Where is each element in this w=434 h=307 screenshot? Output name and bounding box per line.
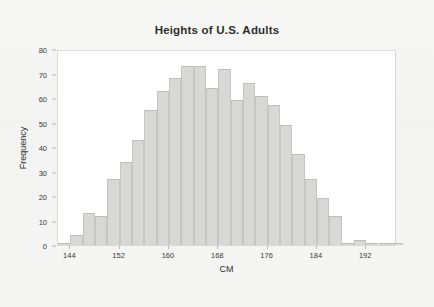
histogram-bar xyxy=(218,69,230,245)
x-axis: 144152160168176184192 xyxy=(57,246,396,264)
histogram-bar xyxy=(83,213,95,245)
histogram-bar xyxy=(317,198,329,245)
histogram-bar xyxy=(58,243,70,245)
y-tick-label: 80 xyxy=(39,46,47,55)
histogram-bar xyxy=(292,154,304,245)
x-tick-mark xyxy=(316,246,317,249)
y-tick-label: 50 xyxy=(39,119,47,128)
y-tick-mark xyxy=(52,123,56,124)
histogram-bar xyxy=(107,179,119,245)
y-tick-label: 70 xyxy=(39,70,47,79)
x-axis-title: CM xyxy=(57,264,396,274)
y-axis: 01020304050607080 xyxy=(0,50,57,246)
plot-area xyxy=(58,51,395,245)
histogram-bar xyxy=(243,83,255,245)
histogram-bar xyxy=(157,91,169,245)
y-tick-label: 0 xyxy=(43,242,47,251)
y-tick-label: 30 xyxy=(39,168,47,177)
x-tick-label: 160 xyxy=(162,251,175,260)
x-tick-mark xyxy=(217,246,218,249)
histogram-bar xyxy=(354,240,366,245)
histogram-bar xyxy=(366,243,378,245)
x-tick-mark xyxy=(267,246,268,249)
y-tick-mark xyxy=(52,74,56,75)
y-tick-label: 10 xyxy=(39,217,47,226)
histogram-bar xyxy=(342,243,354,245)
x-tick-mark xyxy=(69,246,70,249)
y-tick-label: 60 xyxy=(39,95,47,104)
x-tick-label: 144 xyxy=(63,251,76,260)
histogram-bar xyxy=(305,179,317,245)
y-tick-label: 40 xyxy=(39,144,47,153)
histogram-bar xyxy=(280,125,292,245)
histogram-bar xyxy=(206,88,218,245)
x-tick-label: 184 xyxy=(310,251,323,260)
x-tick-mark xyxy=(168,246,169,249)
y-tick-mark xyxy=(52,197,56,198)
x-tick-label: 168 xyxy=(211,251,224,260)
histogram-bar xyxy=(194,66,206,245)
histogram-bar xyxy=(329,216,341,245)
histogram-bar xyxy=(391,243,403,245)
histogram-bar xyxy=(255,96,267,245)
x-tick-label: 192 xyxy=(359,251,372,260)
histogram-bar xyxy=(231,100,243,245)
y-tick-mark xyxy=(52,50,56,51)
histogram-bar xyxy=(144,110,156,245)
x-tick-label: 152 xyxy=(112,251,125,260)
histogram-bar xyxy=(169,78,181,245)
y-tick-mark xyxy=(52,172,56,173)
plot-frame xyxy=(57,50,396,246)
y-tick-mark xyxy=(52,221,56,222)
histogram-bar xyxy=(268,105,280,245)
chart-title: Heights of U.S. Adults xyxy=(0,24,434,36)
y-tick-mark xyxy=(52,246,56,247)
x-tick-mark xyxy=(365,246,366,249)
x-tick-label: 176 xyxy=(260,251,273,260)
x-tick-mark xyxy=(119,246,120,249)
histogram-figure: Heights of U.S. Adults Frequency 0102030… xyxy=(0,0,434,307)
histogram-bar xyxy=(379,243,391,245)
histogram-bar xyxy=(132,140,144,245)
histogram-bar xyxy=(181,66,193,245)
y-tick-label: 20 xyxy=(39,193,47,202)
histogram-bar xyxy=(95,216,107,245)
histogram-bar xyxy=(70,235,82,245)
y-tick-mark xyxy=(52,99,56,100)
y-tick-mark xyxy=(52,148,56,149)
histogram-bar xyxy=(120,162,132,245)
